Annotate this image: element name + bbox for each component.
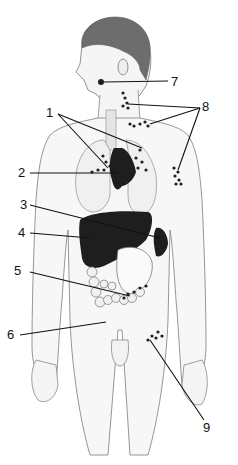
trachea [106,110,116,150]
label-1: 1 [46,106,53,119]
neck [98,90,140,120]
label-4: 4 [18,226,25,239]
label-2: 2 [18,166,25,179]
label-9: 9 [203,421,210,434]
label-3: 3 [20,198,27,211]
genital [111,340,128,366]
body-illustration [0,0,238,465]
label-7: 7 [171,75,178,88]
ear [118,59,128,75]
label-8: 8 [202,100,209,113]
anatomy-figure: 1 2 3 4 5 6 7 8 9 [0,0,238,465]
left-hand [32,360,58,402]
right-hand [182,360,207,405]
label-6: 6 [7,328,14,341]
label-5: 5 [14,264,21,277]
